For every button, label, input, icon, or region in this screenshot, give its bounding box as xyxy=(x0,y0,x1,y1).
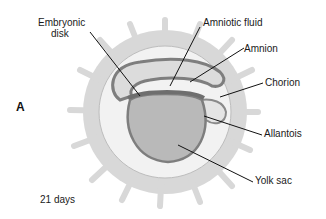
label-amnion: Amnion xyxy=(244,43,278,54)
panel-label: A xyxy=(16,100,25,114)
label-chorion: Chorion xyxy=(265,77,300,88)
label-embryonic-disk: Embryonic disk xyxy=(38,17,85,39)
label-yolk-sac: Yolk sac xyxy=(255,175,292,186)
label-line: disk xyxy=(38,28,85,39)
stage-label: 21 days xyxy=(40,194,75,205)
label-amniotic-fluid: Amniotic fluid xyxy=(203,17,262,28)
label-line: Embryonic xyxy=(38,17,85,28)
label-allantois: Allantois xyxy=(264,128,302,139)
